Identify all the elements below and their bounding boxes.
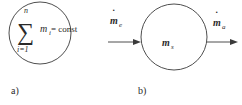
mass-balance-diagram: n ∑ i=1 m i = const a) m ˙ e m s m ˙ a b… (0, 0, 242, 105)
sum-upper-limit: n (24, 6, 28, 15)
panel-a: n ∑ i=1 m i = const a) (9, 2, 78, 97)
outflow-arrow-head (230, 39, 238, 45)
inflow-subscript: e (119, 21, 122, 29)
open-system-circle (141, 4, 207, 70)
inflow-dot: ˙ (112, 8, 115, 19)
outflow-dot: ˙ (215, 10, 218, 21)
panel-b-label: b) (138, 85, 146, 97)
sum-symbol: ∑ (17, 19, 34, 46)
panel-a-label: a) (11, 85, 19, 97)
system-mass-symbol: m (162, 37, 170, 48)
panel-b: m ˙ e m s m ˙ a b) (108, 4, 238, 97)
inflow-arrow-head (133, 39, 141, 45)
outflow-subscript: a (222, 23, 226, 31)
system-mass-subscript: s (171, 43, 174, 51)
equation-rhs: = const (51, 24, 78, 34)
sum-variable: m (40, 23, 47, 34)
sum-lower-limit: i=1 (17, 45, 29, 54)
